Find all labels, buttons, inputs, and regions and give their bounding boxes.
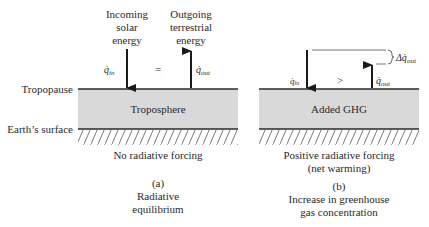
forcing-caption-b-2: (net warming) [308,162,371,175]
delta-q-out-label: Δq̇out [395,52,417,65]
q-out-label-b: q̇out [376,75,391,88]
panel-title-a-1: Radiative [137,190,179,202]
panel-a: Incoming solar energy Outgoing terrestri… [78,8,238,215]
radiative-forcing-diagram: Tropopause Earth’s surface Incoming sola… [0,0,429,227]
panel-letter-a: (a) [152,177,165,190]
ground-hatch-b [259,130,419,145]
q-in-label: q̇in [104,64,115,77]
outgoing-label-2: terrestrial [170,21,212,33]
added-ghg-label: Added GHG [311,103,367,115]
earth-surface-label: Earth’s surface [7,123,73,135]
forcing-caption-b-1: Positive radiative forcing [283,149,395,161]
tropopause-label: Tropopause [21,83,73,95]
outgoing-label-3: energy [176,34,206,46]
panel-title-b-1: Increase in greenhouse [289,193,390,205]
incoming-label-2: solar [116,21,138,33]
panel-letter-b: (b) [333,180,346,193]
brace-icon [388,50,394,64]
q-in-label-b: q̇in [290,76,299,86]
forcing-caption-a: No radiative forcing [113,149,203,161]
panel-title-b-2: gas concentration [300,206,378,218]
q-out-label: q̇out [196,64,211,77]
troposphere-label: Troposphere [130,103,185,115]
outgoing-label-1: Outgoing [170,8,212,20]
incoming-label-1: Incoming [106,8,149,20]
equals-sign: = [155,63,161,75]
incoming-label-3: energy [112,34,142,46]
ground-hatch [78,130,238,145]
greater-than-sign: > [337,74,343,86]
panel-title-a-2: equilibrium [132,203,184,215]
panel-b: Δq̇out q̇in > q̇out Added GHG Positive r… [259,50,419,218]
